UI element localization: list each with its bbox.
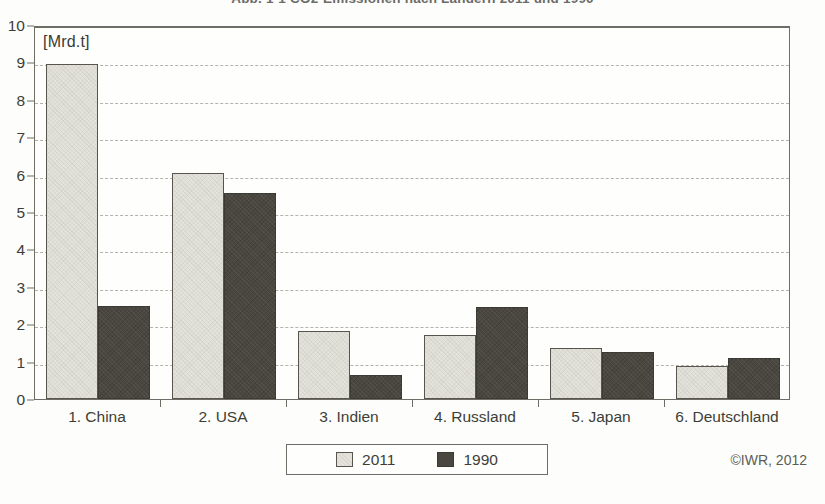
plot-inner: [Mrd.t]	[35, 28, 789, 399]
bar-1990-4	[476, 307, 528, 399]
y-axis-tick-mark	[27, 287, 34, 288]
y-axis-tick-mark	[27, 325, 34, 326]
y-axis-tick-mark	[27, 213, 34, 214]
x-axis-label-2: 2. USA	[198, 408, 247, 426]
y-axis-tick-label: 6	[16, 168, 25, 184]
y-axis-tick-label: 5	[16, 205, 25, 221]
legend-item-1990: 1990	[437, 452, 497, 468]
x-axis-tick-mark	[286, 400, 287, 407]
bar-1990-1	[98, 306, 150, 399]
x-axis-tick-mark	[538, 400, 539, 407]
y-axis-tick-label: 10	[8, 18, 25, 34]
y-axis-tick-mark	[27, 250, 34, 251]
bar-2011-4	[424, 335, 476, 399]
y-axis-tick-label: 8	[16, 93, 25, 109]
x-axis-tick-mark	[160, 400, 161, 407]
y-axis-tick-label: 3	[16, 280, 25, 296]
bar-2011-6	[676, 366, 728, 399]
credit-label: ©IWR, 2012	[731, 452, 807, 468]
y-axis-tick-label: 2	[16, 317, 25, 333]
y-axis: 109876543210	[0, 26, 34, 400]
bar-group	[539, 28, 665, 399]
x-axis-label-3: 3. Indien	[319, 408, 378, 426]
bar-group	[413, 28, 539, 399]
bar-group	[161, 28, 287, 399]
y-axis-tick-mark	[27, 362, 34, 363]
y-axis-tick-mark	[27, 63, 34, 64]
x-axis-label-4: 4. Russland	[434, 408, 516, 426]
y-axis-tick-label: 0	[16, 392, 25, 408]
chart-plot-area: [Mrd.t]	[34, 26, 790, 400]
bar-1990-6	[728, 358, 780, 399]
legend-swatch-2011	[336, 452, 353, 467]
bars-layer	[35, 28, 789, 399]
bar-2011-3	[298, 331, 350, 399]
y-axis-tick-mark	[27, 400, 34, 401]
legend-label-2011: 2011	[362, 452, 395, 468]
y-axis-tick-mark	[27, 175, 34, 176]
bar-group	[35, 28, 161, 399]
bar-2011-2	[172, 173, 224, 399]
x-axis-label-5: 5. Japan	[571, 408, 630, 426]
y-axis-tick-label: 9	[16, 56, 25, 72]
y-axis-tick-label: 1	[16, 355, 25, 371]
x-axis-label-6: 6. Deutschland	[675, 408, 778, 426]
y-axis-tick-mark	[27, 138, 34, 139]
x-axis-tick-mark	[664, 400, 665, 407]
x-axis-ticks	[34, 400, 790, 408]
y-axis-tick-label: 7	[16, 130, 25, 146]
x-axis-labels: 1. China2. USA3. Indien4. Russland5. Jap…	[34, 408, 790, 434]
chart-legend: 20111990	[286, 444, 548, 475]
bar-group	[665, 28, 791, 399]
bar-2011-1	[46, 64, 98, 399]
bar-2011-5	[550, 348, 602, 399]
bar-1990-2	[224, 193, 276, 399]
x-axis-tick-mark	[412, 400, 413, 407]
y-axis-tick-label: 4	[16, 243, 25, 259]
x-axis-label-1: 1. China	[68, 408, 126, 426]
bar-1990-3	[350, 375, 402, 399]
y-axis-tick-mark	[27, 100, 34, 101]
legend-item-2011: 2011	[336, 452, 395, 468]
legend-label-1990: 1990	[463, 452, 497, 468]
legend-swatch-1990	[437, 452, 454, 467]
bar-group	[287, 28, 413, 399]
figure-title: Abb. 1-1 CO2-Emissionen nach Ländern 201…	[0, 0, 825, 8]
y-axis-tick-mark	[27, 26, 34, 27]
bar-1990-5	[602, 352, 654, 399]
